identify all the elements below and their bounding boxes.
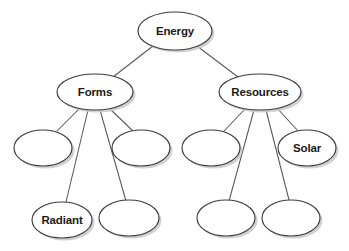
- node-label-forms: Forms: [78, 86, 112, 98]
- node-label-resources-child-2: Solar: [293, 142, 322, 154]
- node-forms-child-4[interactable]: [99, 200, 162, 239]
- node-forms-child-1[interactable]: [14, 130, 75, 169]
- node-resources[interactable]: Resources: [219, 74, 304, 113]
- node-outline-forms-child-2[interactable]: [112, 130, 170, 166]
- node-resources-child-3[interactable]: [197, 200, 258, 239]
- edge-forms-to-forms-child-1: [57, 109, 79, 131]
- edge-energy-to-resources: [197, 46, 238, 77]
- node-label-resources: Resources: [231, 86, 288, 98]
- edge-forms-to-forms-child-2: [110, 109, 133, 131]
- node-resources-child-1[interactable]: [182, 130, 243, 169]
- edge-layer: [57, 46, 298, 202]
- edge-resources-to-resources-child-2: [277, 108, 298, 131]
- node-outline-resources-child-1[interactable]: [182, 130, 240, 166]
- node-label-energy: Energy: [156, 25, 195, 37]
- node-forms-child-2[interactable]: [112, 130, 173, 169]
- node-outline-resources-child-4[interactable]: [262, 200, 320, 236]
- edge-energy-to-forms: [113, 46, 153, 77]
- node-layer: EnergyFormsResourcesRadiantSolar: [14, 12, 339, 241]
- concept-map-canvas: EnergyFormsResourcesRadiantSolar: [0, 0, 349, 251]
- node-resources-child-4[interactable]: [262, 200, 323, 239]
- node-resources-child-2[interactable]: Solar: [278, 130, 339, 169]
- node-forms[interactable]: Forms: [57, 74, 136, 113]
- node-outline-resources-child-3[interactable]: [197, 200, 255, 236]
- node-energy[interactable]: Energy: [138, 12, 215, 53]
- edge-resources-to-resources-child-1: [224, 109, 245, 131]
- node-label-forms-child-3: Radiant: [41, 214, 82, 226]
- concept-map-svg: EnergyFormsResourcesRadiantSolar: [0, 0, 349, 251]
- node-forms-child-3[interactable]: Radiant: [32, 202, 95, 241]
- node-outline-forms-child-1[interactable]: [14, 130, 72, 166]
- node-outline-forms-child-4[interactable]: [99, 200, 159, 236]
